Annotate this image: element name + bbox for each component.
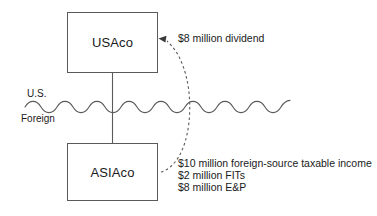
annotation-fact-line-1: $10 million foreign-source taxable incom… bbox=[178, 157, 372, 169]
dividend-flow-arrowhead bbox=[159, 36, 167, 43]
border-label-foreign: Foreign bbox=[21, 113, 55, 124]
annotation-fact-line-3: $8 million E&P bbox=[178, 181, 372, 193]
border-label-us: U.S. bbox=[27, 88, 46, 99]
diagram-canvas: USAco ASIAco U.S. Foreign $8 million div… bbox=[0, 0, 377, 216]
annotation-dividend: $8 million dividend bbox=[178, 32, 264, 44]
annotation-fact-line-2: $2 million FITs bbox=[178, 169, 372, 181]
entity-box-usaco[interactable]: USAco bbox=[67, 12, 158, 73]
us-foreign-border-wave bbox=[25, 100, 290, 112]
entity-label-usaco: USAco bbox=[92, 36, 133, 49]
annotation-asiaco-facts: $10 million foreign-source taxable incom… bbox=[178, 157, 372, 193]
entity-label-asiaco: ASIAco bbox=[91, 166, 135, 179]
entity-box-asiaco[interactable]: ASIAco bbox=[67, 143, 158, 201]
